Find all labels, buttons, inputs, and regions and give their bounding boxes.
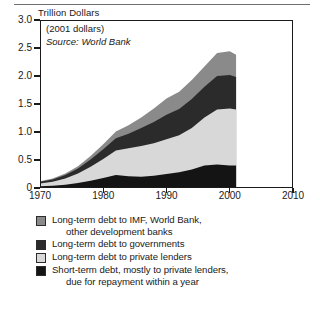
legend-item: Short-term debt, mostly to private lende… [36,264,306,287]
y-tick-label: 0.5 [0,155,32,165]
y-tick-mark [34,131,40,132]
y-tick-mark [34,47,40,48]
legend-swatch-private-lenders [36,253,46,263]
y-tick-label: 2.5 [0,43,32,53]
legend-label-imf-world-bank: Long-term debt to IMF, World Bank, other… [52,214,202,237]
legend-item: Long-term debt to IMF, World Bank, other… [36,214,306,237]
y-tick-label: 1.0 [0,127,32,137]
legend-item: Long-term debt to private lenders [36,251,306,263]
figure: Trillion Dollars (2001 dollars) Source: … [0,0,320,309]
annotation-dollars: (2001 dollars) [46,23,130,36]
y-tick-label: 1.5 [0,99,32,109]
header-rule [14,4,310,5]
x-tick-mark [166,188,167,193]
legend: Long-term debt to IMF, World Bank, other… [36,214,306,288]
y-axis-unit-title: Trillion Dollars [38,7,99,18]
y-tick-mark [34,19,40,20]
y-tick-label: 3.0 [0,15,32,25]
y-tick-label: 2.0 [0,71,32,81]
legend-swatch-short-term [36,266,46,276]
y-tick-mark [34,75,40,76]
legend-label-governments: Long-term debt to governments [52,238,184,250]
legend-label-private-lenders: Long-term debt to private lenders [52,251,192,263]
y-tick-mark [34,103,40,104]
annotation-source: Source: World Bank [46,36,130,49]
x-tick-mark [103,188,104,193]
y-tick-mark [34,187,40,188]
chart-annotations: (2001 dollars) Source: World Bank [46,23,130,48]
y-tick-mark [34,159,40,160]
legend-label-short-term: Short-term debt, mostly to private lende… [52,264,228,287]
x-tick-mark [229,188,230,193]
x-tick-mark [292,188,293,193]
legend-swatch-governments [36,240,46,250]
legend-swatch-imf-world-bank [36,216,46,226]
legend-item: Long-term debt to governments [36,238,306,250]
x-tick-label: 1970 [20,191,60,201]
plot-area: (2001 dollars) Source: World Bank [40,20,293,188]
